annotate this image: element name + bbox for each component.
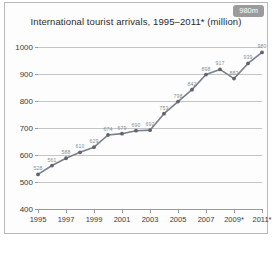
data-point-label: 629 [90, 138, 99, 144]
x-tick-mark [234, 209, 235, 213]
data-point [134, 129, 138, 133]
data-point-label: 692 [146, 121, 155, 127]
x-tick-mark [38, 209, 39, 213]
x-tick-mark [150, 209, 151, 213]
data-point [232, 77, 236, 81]
x-tick-mark [262, 209, 263, 213]
x-tick-mark [206, 209, 207, 213]
y-tick-label: 1000 [15, 43, 33, 52]
data-point-label: 588 [62, 149, 71, 155]
x-tick-mark [178, 209, 179, 213]
y-tick-label: 800 [20, 97, 33, 106]
data-point-label: 561 [48, 157, 57, 163]
x-tick-mark [122, 209, 123, 213]
x-tick-label: 2009* [224, 215, 244, 224]
callout-badge: 980m [233, 5, 264, 17]
data-point-label: 674 [104, 126, 113, 132]
x-tick-label: 2003 [142, 215, 159, 224]
series-line [38, 47, 262, 209]
data-point [64, 156, 68, 160]
data-point-label: 753 [160, 105, 169, 111]
x-tick-label: 2007 [198, 215, 215, 224]
data-point-label: 939 [244, 54, 253, 60]
data-point [162, 112, 166, 116]
data-point-label: 610 [76, 143, 85, 149]
y-tick-label: 900 [20, 70, 33, 79]
data-point-label: 679 [118, 125, 127, 131]
data-point-label: 898 [202, 66, 211, 72]
x-tick-mark [94, 209, 95, 213]
screenshot-root: International tourist arrivals, 1995–201… [0, 0, 274, 261]
x-tick-label: 1997 [58, 215, 75, 224]
x-tick-label: 1999 [86, 215, 103, 224]
data-point [36, 173, 40, 177]
data-point [260, 51, 264, 55]
data-point [204, 73, 208, 77]
chart-title: International tourist arrivals, 1995–201… [5, 16, 267, 27]
data-point [246, 62, 250, 66]
chart-figure: International tourist arrivals, 1995–201… [4, 2, 268, 234]
data-point-label: 528 [34, 165, 43, 171]
x-tick-mark [66, 209, 67, 213]
data-point-label: 883 [230, 70, 239, 76]
data-point [190, 88, 194, 92]
x-tick-label: 2005 [170, 215, 187, 224]
plot-area: 4005006007008009001000 19951997199920012… [38, 47, 262, 209]
data-point-label: 690 [132, 122, 141, 128]
data-point [218, 68, 222, 72]
data-point-label: 842 [188, 81, 197, 87]
y-tick-label: 600 [20, 151, 33, 160]
data-point [148, 128, 152, 132]
x-tick-label: 1995 [30, 215, 47, 224]
data-point [78, 150, 82, 154]
data-point-label: 917 [216, 60, 225, 66]
data-point-label: 980 [258, 43, 267, 49]
x-tick-label: 2001 [114, 215, 131, 224]
y-tick-label: 700 [20, 124, 33, 133]
x-tick-label: 2011* [252, 215, 271, 224]
data-point [92, 145, 96, 149]
data-point [176, 100, 180, 104]
y-tick-label: 400 [20, 205, 33, 214]
data-point [120, 132, 124, 136]
data-point-label: 798 [174, 93, 183, 99]
data-point [50, 164, 54, 168]
data-point [106, 133, 110, 137]
y-tick-label: 500 [20, 178, 33, 187]
